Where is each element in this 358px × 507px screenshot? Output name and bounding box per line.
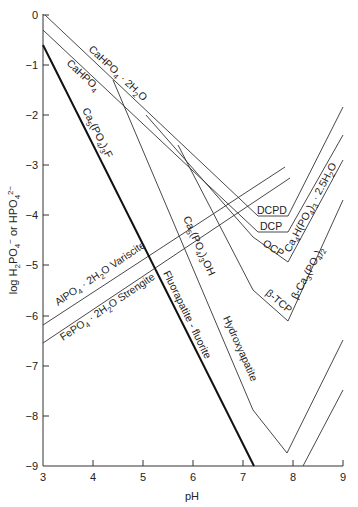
label-dcp: DCP [260, 220, 282, 232]
line-dcp [43, 30, 343, 232]
y-tick-labels: 0 −1 −2 −3 −4 −5 −6 −7 −8 −9 [25, 9, 38, 472]
label-fluorapatite: Fluorapatite - fluorite [161, 269, 214, 361]
svg-text:5: 5 [140, 471, 146, 483]
label-cahpo4: CaHPO4 [63, 57, 103, 95]
svg-text:−2: −2 [25, 109, 38, 121]
label-dcpd: DCPD [257, 204, 287, 216]
y-axis-label: log H2PO4− or HPO42− [6, 185, 22, 294]
svg-text:9: 9 [340, 471, 346, 483]
svg-text:−7: −7 [25, 360, 38, 372]
svg-text:4: 4 [90, 471, 96, 483]
svg-text:−1: −1 [25, 59, 38, 71]
label-cahpo4-2h2o: CaHPO4 · 2H2O [85, 43, 150, 105]
svg-text:−5: −5 [25, 259, 38, 271]
line-variscite [43, 167, 285, 325]
label-strengite: FePO4 · 2H2O Strengite [57, 270, 158, 345]
label-ca4hpo43: Ca4H(PO4)3 · 2.5H2O [281, 160, 341, 255]
svg-text:8: 8 [290, 471, 296, 483]
x-axis-label: pH [185, 490, 199, 502]
line-btcp [178, 145, 343, 321]
svg-text:7: 7 [240, 471, 246, 483]
svg-text:0: 0 [32, 9, 38, 21]
svg-text:6: 6 [190, 471, 196, 483]
label-variscite: AlPO4 · 2H2O Variscite [52, 238, 149, 310]
svg-text:−9: −9 [25, 460, 38, 472]
line-fluorapatite [43, 45, 254, 466]
x-tick-labels: 3 4 5 6 7 8 9 [40, 471, 346, 483]
phosphate-solubility-chart: 0 −1 −2 −3 −4 −5 −6 −7 −8 −9 3 4 5 6 7 8… [0, 0, 358, 507]
series-annotations: CaHPO4 · 2H2O CaHPO4 Ca5(PO4)3F Ca5(PO4)… [52, 43, 341, 383]
svg-text:−6: −6 [25, 310, 38, 322]
line-lower-right [303, 390, 343, 466]
label-b-ca3po42: β-Ca3(PO4)2 [288, 244, 328, 302]
svg-text:−8: −8 [25, 410, 38, 422]
svg-text:−3: −3 [25, 159, 38, 171]
svg-text:−4: −4 [25, 209, 38, 221]
svg-text:3: 3 [40, 471, 46, 483]
